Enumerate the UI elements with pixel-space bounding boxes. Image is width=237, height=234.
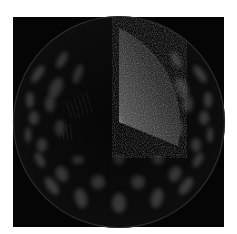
sphere-rendering [0,0,237,234]
